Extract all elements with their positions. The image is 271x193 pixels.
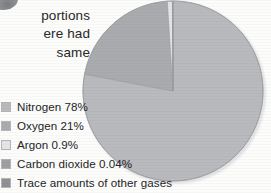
legend-swatch-trace-gases [1, 178, 11, 188]
legend-swatch-carbon-dioxide [1, 159, 11, 169]
legend-item-nitrogen[interactable]: Nitrogen 78% [1, 97, 193, 116]
legend-swatch-nitrogen [1, 102, 11, 112]
legend-label-argon: Argon 0.9% [17, 138, 78, 151]
legend-label-trace-gases: Trace amounts of other gases [17, 176, 172, 189]
legend-item-argon[interactable]: Argon 0.9% [1, 135, 193, 154]
legend-item-carbon-dioxide[interactable]: Carbon dioxide 0.04% [1, 154, 193, 173]
legend-item-trace-gases[interactable]: Trace amounts of other gases [1, 173, 193, 192]
legend: Nitrogen 78% Oxygen 21% Argon 0.9% Carbo… [1, 97, 193, 192]
legend-label-nitrogen: Nitrogen 78% [17, 100, 88, 113]
legend-item-oxygen[interactable]: Oxygen 21% [1, 116, 193, 135]
legend-label-oxygen: Oxygen 21% [17, 119, 84, 132]
legend-label-carbon-dioxide: Carbon dioxide 0.04% [17, 157, 132, 170]
legend-swatch-oxygen [1, 121, 11, 131]
figure-canvas: portions ere had same Nitrogen 78% Oxyge… [0, 0, 271, 193]
legend-swatch-argon [1, 140, 11, 150]
